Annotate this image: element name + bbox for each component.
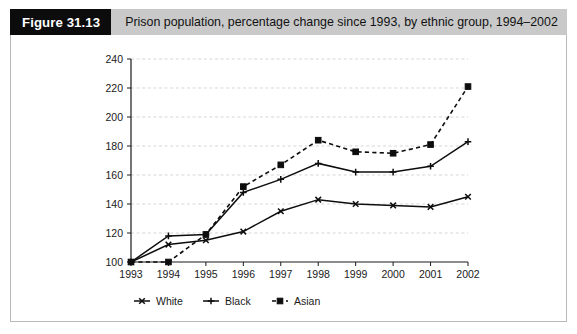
y-tick-label-180: 180	[105, 140, 123, 152]
x-tick-label-2001: 2001	[419, 268, 443, 280]
legend-label-asian: Asian	[294, 295, 320, 307]
series-asian	[128, 84, 471, 265]
y-tick-label-140: 140	[105, 198, 123, 210]
y-tick-label-200: 200	[105, 111, 123, 123]
legend-item-black: Black	[203, 295, 251, 307]
series-asian-pt-1997-square-marker	[278, 162, 284, 168]
data-series-group	[128, 84, 472, 266]
series-black	[128, 138, 472, 265]
series-asian-pt-1995-square-marker	[203, 232, 209, 238]
series-white	[128, 194, 471, 265]
series-black-pt-1997-plus-marker	[277, 176, 284, 183]
line-chart: 100120140160180200220240 199319941995199…	[0, 0, 577, 334]
x-tick-label-1995: 1995	[194, 268, 218, 280]
y-axis-tick-labels: 100120140160180200220240	[105, 53, 123, 268]
legend-item-asian: Asian	[272, 295, 320, 307]
axis-spines	[131, 59, 468, 262]
series-asian-pt-2001-square-marker	[428, 142, 434, 148]
figure-container: Figure 31.13 Prison population, percenta…	[0, 0, 577, 334]
series-asian-pt-1993-square-marker	[128, 259, 134, 265]
y-tick-label-240: 240	[105, 53, 123, 65]
x-tick-label-2000: 2000	[381, 268, 405, 280]
x-tick-label-1993: 1993	[119, 268, 143, 280]
y-tick-label-100: 100	[105, 256, 123, 268]
x-axis-tick-labels: 1993199419951996199719981999200020012002	[119, 268, 480, 280]
legend-label-black: Black	[225, 295, 251, 307]
x-tick-label-1997: 1997	[269, 268, 293, 280]
series-line-black	[131, 142, 468, 262]
y-tick-label-220: 220	[105, 82, 123, 94]
series-asian-pt-2002-square-marker	[465, 84, 471, 90]
x-tick-label-1994: 1994	[157, 268, 181, 280]
y-tick-label-160: 160	[105, 169, 123, 181]
x-tick-label-1996: 1996	[232, 268, 256, 280]
legend-asian-square-marker	[277, 298, 283, 304]
series-asian-pt-1998-square-marker	[315, 137, 321, 143]
x-tick-label-2002: 2002	[456, 268, 480, 280]
series-black-pt-2000-plus-marker	[390, 169, 397, 176]
chart-area: 100120140160180200220240 199319941995199…	[0, 0, 577, 334]
series-asian-pt-1994-square-marker	[166, 259, 172, 265]
legend-item-white: White	[134, 295, 183, 307]
x-tick-label-1998: 1998	[307, 268, 331, 280]
chart-legend: WhiteBlackAsian	[134, 295, 320, 307]
y-tick-label-120: 120	[105, 227, 123, 239]
series-black-pt-1999-plus-marker	[352, 169, 359, 176]
series-asian-pt-1999-square-marker	[353, 149, 359, 155]
x-tick-label-1999: 1999	[344, 268, 368, 280]
legend-label-white: White	[156, 295, 183, 307]
series-asian-pt-1996-square-marker	[241, 184, 247, 190]
series-asian-pt-2000-square-marker	[390, 150, 396, 156]
series-black-pt-1998-plus-marker	[315, 160, 322, 167]
legend-black-plus-marker	[208, 298, 215, 305]
